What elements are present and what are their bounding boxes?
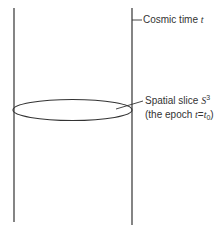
slice-leader-line bbox=[116, 101, 143, 109]
cosmic-time-text: Cosmic time bbox=[143, 14, 201, 25]
epoch-close: ) bbox=[210, 109, 213, 120]
time-variable: t bbox=[201, 14, 204, 25]
spatial-slice-label: Spatial slice S3 bbox=[145, 95, 210, 107]
epoch-label: (the epoch t=t0) bbox=[145, 109, 214, 121]
cosmic-time-label: Cosmic time t bbox=[143, 14, 204, 26]
slice-text: Spatial slice bbox=[145, 95, 201, 106]
spatial-slice-ellipse bbox=[13, 100, 132, 121]
slice-superscript: 3 bbox=[206, 94, 210, 101]
epoch-open: (the epoch bbox=[145, 109, 195, 120]
